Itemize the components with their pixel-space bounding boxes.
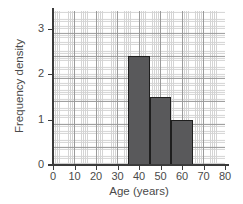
histogram-bar (171, 120, 193, 165)
y-axis-tick (48, 165, 53, 166)
y-axis-line (52, 8, 54, 166)
y-axis-tick-label: 2 (26, 67, 44, 80)
y-axis-tick-label: 1 (26, 113, 44, 126)
histogram-bar (150, 97, 172, 165)
y-axis-tick-label: 0 (26, 158, 44, 171)
plot-area (53, 11, 225, 165)
y-axis-title: Frequency density (13, 11, 25, 161)
y-axis-tick (48, 29, 53, 30)
histogram-chart: 0 10 20 30 40 50 60 70 80 0 1 2 3 Age (y… (0, 0, 243, 204)
histogram-bar (128, 56, 150, 165)
x-axis-tick-label: 80 (212, 170, 238, 183)
x-axis-title: Age (years) (53, 185, 225, 197)
y-axis-tick (48, 120, 53, 121)
y-axis-tick-label: 3 (26, 22, 44, 35)
y-axis-tick (48, 74, 53, 75)
